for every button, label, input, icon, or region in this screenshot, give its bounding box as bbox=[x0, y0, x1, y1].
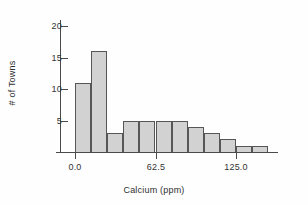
histogram-bar bbox=[91, 51, 107, 152]
histogram-bars bbox=[0, 0, 308, 206]
histogram-bar bbox=[123, 121, 139, 153]
histogram-bar bbox=[139, 121, 155, 153]
histogram-bar bbox=[204, 133, 220, 152]
histogram-figure: 5101520 0.062.5125.0 Calcium (ppm) # of … bbox=[0, 0, 308, 206]
histogram-bar bbox=[75, 83, 91, 152]
x-axis-title: Calcium (ppm) bbox=[0, 185, 308, 195]
histogram-bar bbox=[172, 121, 188, 153]
histogram-bar bbox=[188, 127, 204, 152]
histogram-bar bbox=[156, 121, 172, 153]
y-axis-title: # of Towns bbox=[7, 38, 17, 128]
histogram-bar bbox=[107, 133, 123, 152]
histogram-bar bbox=[252, 146, 268, 152]
histogram-bar bbox=[236, 146, 252, 152]
histogram-bar bbox=[220, 139, 236, 152]
